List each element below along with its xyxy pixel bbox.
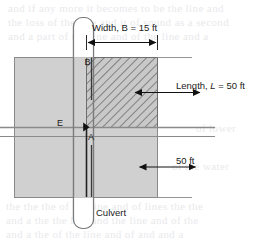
point-e-label: E xyxy=(57,118,63,128)
point-b-label: B xyxy=(85,57,91,67)
point-a-label: A xyxy=(88,132,94,142)
culvert-label: Culvert xyxy=(96,207,126,218)
culvert-callout: Culvert xyxy=(96,207,126,218)
length-dimension-label: Length, L = 50 ft xyxy=(176,80,245,91)
width-dimension-label: Width, B = 15 ft xyxy=(92,22,158,33)
culvert-diagram: Width, B = 15 ft Length, L = 50 ft 50 ft… xyxy=(0,0,254,241)
lower-dimension-label: 50 ft xyxy=(176,155,195,166)
width-dimension: Width, B = 15 ft xyxy=(87,22,158,50)
